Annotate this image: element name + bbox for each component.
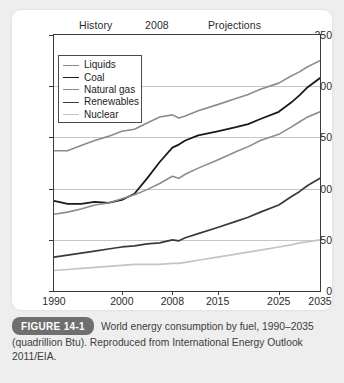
figure-caption: FIGURE 14-1World energy consumption by f…	[12, 318, 334, 363]
series-line-natural-gas	[54, 112, 320, 214]
series-line-nuclear	[54, 240, 320, 271]
era-label-projections: Projections	[208, 19, 261, 31]
legend-item-coal[interactable]: Coal	[63, 71, 141, 83]
legend-item-liquids[interactable]: Liquids	[63, 59, 141, 71]
era-label-history: History	[79, 19, 112, 31]
legend-swatch-icon	[63, 114, 79, 115]
legend-item-natural-gas[interactable]: Natural gas	[63, 84, 141, 96]
legend-label: Natural gas	[84, 85, 135, 95]
legend-label: Liquids	[84, 60, 116, 70]
x-tick-label: 2008	[161, 295, 184, 307]
figure-number-badge: FIGURE 14-1	[12, 317, 94, 335]
legend-swatch-icon	[63, 89, 79, 90]
legend-label: Renewables	[84, 97, 139, 107]
x-tick-label: 2035	[308, 295, 331, 307]
chart-legend: LiquidsCoalNatural gasRenewablesNuclear	[58, 55, 142, 123]
legend-swatch-icon	[63, 77, 79, 78]
legend-label: Coal	[84, 73, 105, 83]
chart-area: History 2008 Projections 050100150200250…	[12, 10, 332, 310]
x-tick-label: 1990	[42, 295, 65, 307]
legend-item-nuclear[interactable]: Nuclear	[63, 109, 141, 121]
legend-swatch-icon	[63, 65, 79, 66]
figure-card: History 2008 Projections 050100150200250…	[12, 10, 332, 310]
series-line-renewables	[54, 178, 320, 257]
x-tick-label: 2025	[267, 295, 290, 307]
x-tick-label: 2000	[110, 295, 133, 307]
era-label-divider-year: 2008	[145, 19, 169, 31]
legend-item-renewables[interactable]: Renewables	[63, 96, 141, 108]
legend-label: Nuclear	[84, 110, 118, 120]
legend-swatch-icon	[63, 102, 79, 103]
x-tick-label: 2015	[206, 295, 229, 307]
